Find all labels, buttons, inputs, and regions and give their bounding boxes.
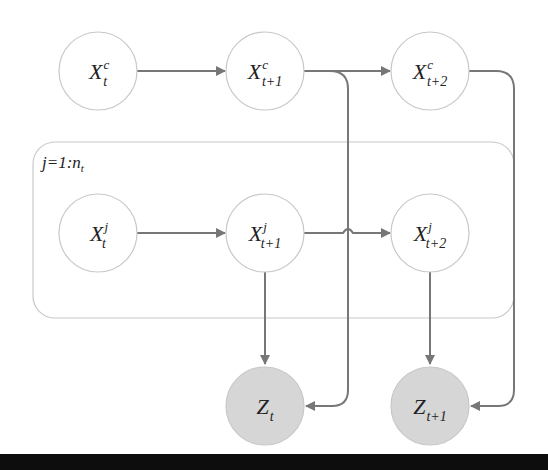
label-xc-t2: Xct+2 [413,61,448,83]
label-z-t1: Zt+1 [413,396,447,418]
label-xj-t2: Xjt+2 [414,223,446,245]
label-xj-t: Xjt [90,223,106,245]
edge-xc_t2-z_t1 [469,71,514,406]
edge-xc_t1-z_t [304,71,348,406]
label-z-t: Zt [256,396,273,418]
label-xc-t1: Xct+1 [248,61,283,83]
bottom-border-bar [0,454,548,470]
plate-label: j=1:nt [42,153,84,173]
label-xj-t1: Xjt+1 [249,223,281,245]
label-xc-t: Xct [89,61,107,83]
